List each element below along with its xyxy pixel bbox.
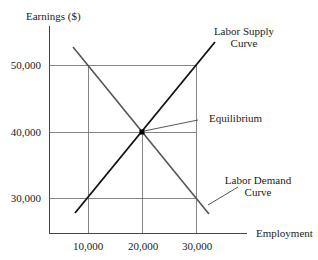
x-tick-20000: 20,000 xyxy=(128,240,159,252)
x-axis-label: Employment xyxy=(256,227,313,239)
equilibrium-point xyxy=(140,130,145,135)
y-tick-50000: 50,000 xyxy=(11,59,42,71)
demand-leader xyxy=(208,187,238,205)
labor-supply-curve xyxy=(75,42,215,213)
x-tick-30000: 30,000 xyxy=(182,240,213,252)
y-tick-40000: 40,000 xyxy=(11,126,42,138)
demand-label-line1: Labor Demand xyxy=(225,174,292,186)
demand-label-line2: Curve xyxy=(245,186,272,198)
x-tick-10000: 10,000 xyxy=(73,240,104,252)
y-tick-30000: 30,000 xyxy=(11,192,42,204)
equilibrium-leader xyxy=(144,120,198,131)
supply-label-line2: Curve xyxy=(231,37,258,49)
equilibrium-label: Equilibrium xyxy=(209,112,263,124)
labor-market-chart: Earnings ($) Employment 50,000 40,000 30… xyxy=(0,0,318,260)
supply-label-line1: Labor Supply xyxy=(214,25,275,37)
y-axis-label: Earnings ($) xyxy=(26,10,81,23)
